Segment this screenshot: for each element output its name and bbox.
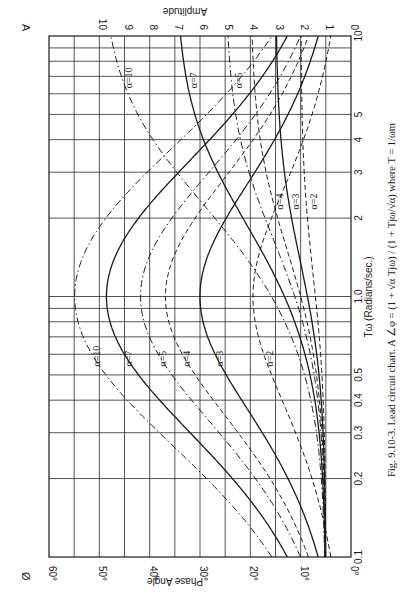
amplitude-axis-title: Amplitude [162,6,207,17]
frequency-tick-label: 0.4 [353,393,364,407]
labels: 0.10.20.30.40.51.02345100°10°20°30°40°50… [47,19,364,581]
phase-curve-label: α=4 [181,351,192,367]
phase-axis-title: Phase Angle [146,576,203,587]
frequency-tick-label: 10 [353,30,364,42]
phase-tick-label: 50° [97,566,108,581]
frequency-tick-label: 4 [353,136,364,142]
frequency-tick-label: 0.1 [353,550,364,564]
amplitude-tick-label: 1 [324,24,335,30]
amplitude-tick-label: 3 [274,24,285,30]
frequency-tick-label: 5 [353,111,364,117]
amplitude-tick-label: 2 [299,24,310,30]
phase-tick-label: 20° [248,566,259,581]
phase-curve-label: α=3 [214,351,225,367]
frequency-tick-label: 2 [353,215,364,221]
phase-tick-label: 0° [349,566,360,576]
figure-caption: Fig. 9.10-3. Lead circuit chart. A ∠φ = … [386,123,398,477]
amplitude-tick-label: 9 [123,24,134,30]
frequency-tick-label: 0.3 [353,425,364,439]
phase-symbol: Ø [20,572,32,581]
amplitude-curve-label: α=5 [233,72,244,88]
frequency-tick-label: 0.5 [353,368,364,382]
amplitude-tick-label: 10 [97,19,108,31]
amplitude-tick-label: 8 [148,24,159,30]
frequency-axis-title: Tω (Radians/sec.) [363,256,374,337]
phase-curve-label: α=5 [157,351,168,367]
phase-tick-label: 10° [299,566,310,581]
amplitude-curve-label: α=7 [188,72,199,88]
phase-curve-label: α=2 [264,351,275,367]
amplitude-tick-label: 5 [223,24,234,30]
frequency-tick-label: 3 [353,169,364,175]
phase-curve-label: α=10 [91,346,102,367]
amplitude-curve-label: α=10 [123,67,134,88]
frequency-tick-label: 0.2 [353,471,364,485]
amplitude-curve-label: α=2 [308,194,319,210]
phase-curve-label: α=7 [123,351,134,367]
amplitude-tick-label: 0 [349,24,360,30]
amplitude-tick-label: 4 [248,24,259,30]
amplitude-symbol: A [20,24,32,32]
amplitude-tick-label: 7 [173,24,184,30]
phase-tick-label: 60° [47,566,58,581]
amplitude-curve-label: α=3 [290,194,301,210]
amplitude-curve-label: α=4 [274,194,285,210]
lead-circuit-chart: 0.10.20.30.40.51.02345100°10°20°30°40°50… [0,0,416,597]
amplitude-tick-label: 6 [198,24,209,30]
